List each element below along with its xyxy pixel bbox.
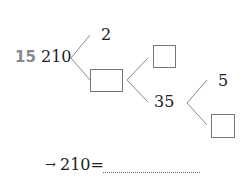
answer-box-level3[interactable] <box>211 114 235 138</box>
factor-tree-branches <box>0 0 244 188</box>
answer-box-level2[interactable] <box>153 45 176 68</box>
branch-root <box>71 35 90 80</box>
root-number: 210 <box>41 49 72 65</box>
arrow-icon: → <box>45 157 56 172</box>
answer-expression: 210= <box>60 157 104 173</box>
question-number: 15 <box>15 48 36 66</box>
factor-5: 5 <box>218 73 228 89</box>
factor-2: 2 <box>101 27 111 43</box>
answer-box-level1[interactable] <box>90 69 123 92</box>
branch-level2 <box>127 58 148 102</box>
answer-blank[interactable] <box>103 172 200 173</box>
factor-35: 35 <box>154 94 174 110</box>
branch-level3 <box>187 80 207 125</box>
